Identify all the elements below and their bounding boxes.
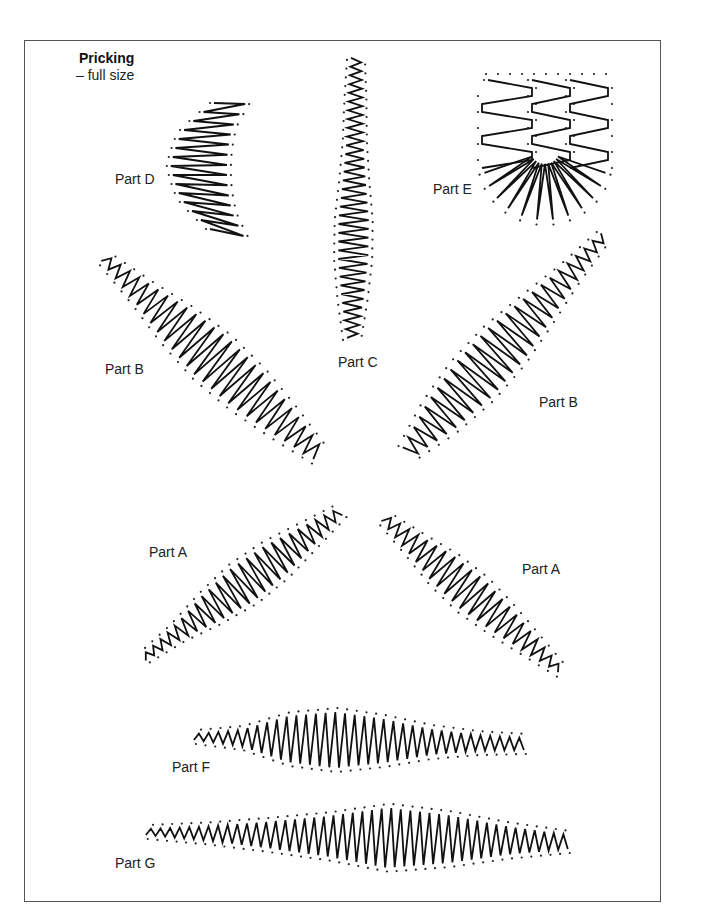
part-d-stitches (166, 102, 251, 237)
pricking-pattern-drawing (0, 0, 701, 922)
part-f-stitches (194, 707, 527, 773)
label-part-d: Part D (115, 171, 155, 187)
part-g-stitches (146, 803, 571, 873)
label-part-c: Part C (338, 354, 378, 370)
part-a-left-stitches (144, 506, 348, 664)
part-a-right-stitches (379, 515, 564, 678)
part-c-stitches (333, 58, 374, 341)
label-part-g: Part G (115, 855, 155, 871)
label-part-a-right: Part A (522, 561, 560, 577)
label-part-b-right: Part B (539, 394, 578, 410)
label-part-a-left: Part A (149, 544, 187, 560)
part-e-stitches (477, 73, 613, 226)
label-part-e: Part E (433, 181, 472, 197)
part-b-right-stitches (397, 231, 606, 459)
label-part-b-left: Part B (105, 361, 144, 377)
label-part-f: Part F (172, 759, 210, 775)
